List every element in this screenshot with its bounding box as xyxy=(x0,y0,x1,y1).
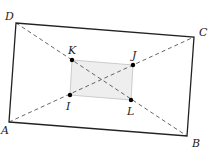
diagram-canvas: ABCDKJLI xyxy=(0,0,210,149)
label-j: J xyxy=(130,49,137,62)
label-c: C xyxy=(199,26,208,39)
label-l: L xyxy=(126,105,134,118)
label-k: K xyxy=(67,44,77,57)
point-i xyxy=(68,93,72,97)
geometry-diagram: ABCDKJLI xyxy=(0,0,210,149)
point-j xyxy=(131,63,135,67)
label-b: B xyxy=(191,137,200,149)
point-k xyxy=(70,58,74,62)
label-i: I xyxy=(65,100,71,113)
diagonal-ac xyxy=(9,37,194,122)
label-a: A xyxy=(0,124,9,137)
point-l xyxy=(129,98,133,102)
label-d: D xyxy=(4,10,14,23)
